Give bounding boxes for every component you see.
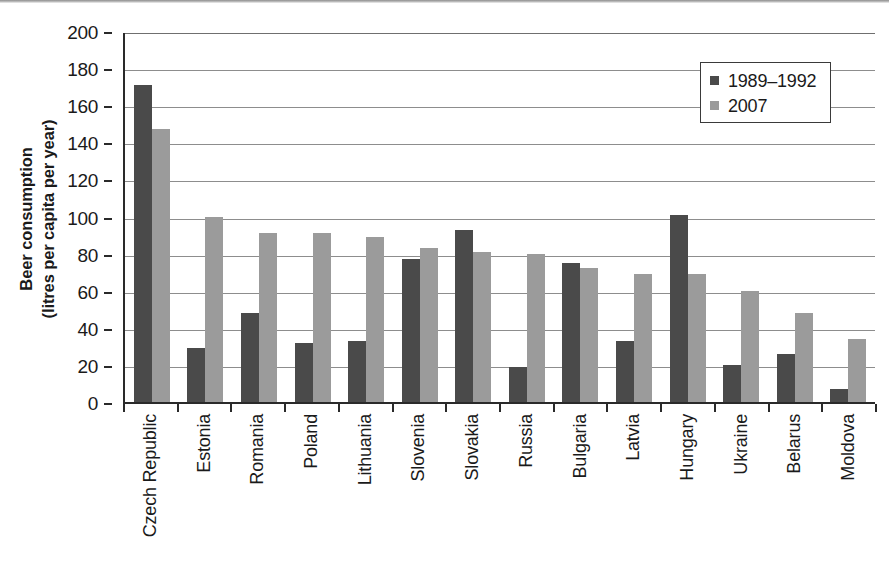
y-axis-tick-mark <box>104 292 112 294</box>
x-axis-label-cell: Moldova <box>821 412 875 580</box>
bar <box>402 259 420 402</box>
x-axis-label-cell: Hungary <box>660 412 714 580</box>
bar-group <box>232 33 286 402</box>
x-axis-category-label: Poland <box>301 414 322 469</box>
chart-figure: Beer consumption (litres per capita per … <box>0 0 889 582</box>
bar <box>134 85 152 402</box>
bar-group <box>179 33 233 402</box>
x-axis-category-label: Moldova <box>838 414 859 481</box>
y-axis-tick-label: 100 <box>67 208 98 230</box>
y-axis-tick-mark <box>104 32 112 34</box>
x-axis-tick-mark <box>768 404 770 412</box>
chart-legend: 1989–1992 2007 <box>700 62 831 123</box>
x-axis-tick-mark <box>553 404 555 412</box>
bar-group <box>339 33 393 402</box>
y-axis-tick-mark <box>104 218 112 220</box>
x-axis-category-label: Czech Republic <box>139 414 160 537</box>
x-axis-label-cell: Estonia <box>177 412 231 580</box>
x-axis-category-label: Bulgaria <box>569 414 590 478</box>
bar <box>295 343 313 402</box>
x-axis-tick-mark <box>123 404 125 412</box>
x-axis-label-cell: Czech Republic <box>123 412 177 580</box>
x-axis-category-label: Estonia <box>193 414 214 473</box>
legend-swatch-icon <box>710 101 719 110</box>
x-axis-label-cell: Ukraine <box>714 412 768 580</box>
y-axis-tick-label: 180 <box>67 59 98 81</box>
y-axis-tick-mark <box>104 106 112 108</box>
bar <box>634 274 652 402</box>
x-axis-tick-mark <box>499 404 501 412</box>
y-axis-tick-label: 0 <box>88 393 98 415</box>
x-axis-tick-mark <box>177 404 179 412</box>
bar <box>670 215 688 402</box>
y-axis-tick-mark <box>104 366 112 368</box>
bar <box>688 274 706 402</box>
bar <box>580 268 598 402</box>
bar <box>455 230 473 403</box>
bar <box>616 341 634 402</box>
x-axis-tick-mark <box>714 404 716 412</box>
bar-group <box>554 33 608 402</box>
y-axis-tick-label: 40 <box>77 319 98 341</box>
bar-group <box>446 33 500 402</box>
bar-group <box>286 33 340 402</box>
y-axis-tick-mark <box>104 180 112 182</box>
x-axis-tick-mark <box>338 404 340 412</box>
x-axis-label-cell: Bulgaria <box>553 412 607 580</box>
y-axis-tick-mark <box>104 143 112 145</box>
bar <box>187 348 205 402</box>
bar <box>205 217 223 403</box>
x-axis-category-label: Romania <box>247 414 268 485</box>
x-axis-label-cell: Romania <box>230 412 284 580</box>
bar-group <box>500 33 554 402</box>
y-axis-tick-mark <box>104 329 112 331</box>
legend-label: 2007 <box>728 96 767 116</box>
x-axis-tick-mark <box>230 404 232 412</box>
x-axis-category-label: Russia <box>515 414 536 468</box>
x-axis-label-cell: Slovakia <box>445 412 499 580</box>
y-axis-tick-label: 160 <box>67 96 98 118</box>
x-axis-label-cell: Russia <box>499 412 553 580</box>
bar <box>830 389 848 402</box>
x-axis-category-label: Lithuania <box>354 414 375 485</box>
y-axis-tick-label: 80 <box>77 245 98 267</box>
y-axis-tick-label: 140 <box>67 133 98 155</box>
x-axis-tick-mark <box>875 404 877 412</box>
legend-swatch-icon <box>710 76 719 85</box>
bar <box>241 313 259 402</box>
x-axis-tick-mark <box>392 404 394 412</box>
y-axis-tick-label: 60 <box>77 282 98 304</box>
bar <box>348 341 366 402</box>
bar <box>741 291 759 402</box>
x-axis-tick-mark <box>284 404 286 412</box>
x-axis-tick-mark <box>606 404 608 412</box>
y-axis-tick-mark <box>104 69 112 71</box>
x-axis-label-cell: Belarus <box>768 412 822 580</box>
bar <box>259 233 277 402</box>
legend-label: 1989–1992 <box>728 71 816 91</box>
y-axis-tick-labels: 200180160140120100806040200 <box>0 33 112 404</box>
x-axis-category-label: Belarus <box>784 414 805 474</box>
bar <box>723 365 741 402</box>
bar-group <box>125 33 179 402</box>
y-axis-tick-mark <box>104 403 112 405</box>
x-axis-category-label: Latvia <box>623 414 644 461</box>
bar <box>777 354 795 402</box>
bar <box>313 233 331 402</box>
bar <box>366 237 384 402</box>
x-axis-tick-mark <box>821 404 823 412</box>
y-axis-tick-mark <box>104 255 112 257</box>
scan-edge-artifact <box>0 0 889 3</box>
x-axis-category-label: Hungary <box>677 414 698 481</box>
x-axis-category-label: Slovakia <box>462 414 483 480</box>
bar <box>509 367 527 402</box>
bar <box>795 313 813 402</box>
bar-group <box>607 33 661 402</box>
x-axis-category-label: Ukraine <box>730 414 751 475</box>
bar <box>527 254 545 402</box>
y-axis-tick-label: 120 <box>67 170 98 192</box>
bar <box>848 339 866 402</box>
x-axis-tick-mark <box>660 404 662 412</box>
x-axis-category-labels: Czech RepublicEstoniaRomaniaPolandLithua… <box>123 412 875 580</box>
y-axis-tick-label: 20 <box>77 356 98 378</box>
